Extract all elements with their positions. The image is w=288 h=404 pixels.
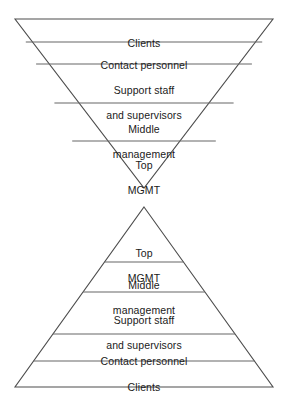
upright-pyramid-outline	[15, 207, 273, 387]
diagram-canvas: Clients Contact personnel Support staff …	[0, 0, 288, 404]
pyramid-shapes	[0, 0, 288, 404]
